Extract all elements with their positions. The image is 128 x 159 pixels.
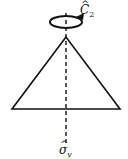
symmetry-diagram [0, 0, 128, 159]
c2-axis-label: ^C2 [80, 4, 94, 19]
sigma-subscript: v [67, 150, 72, 159]
c2-subscript: 2 [89, 10, 94, 19]
sigma-v-label: ^σv [59, 144, 72, 159]
c2-hat: ^ [81, 0, 89, 9]
sigma-hat: ^ [60, 139, 68, 149]
